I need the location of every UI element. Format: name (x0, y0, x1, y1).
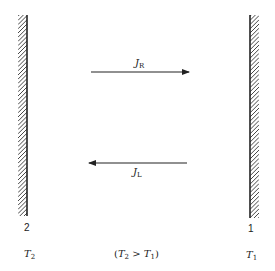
wall-1-number: 1 (248, 223, 254, 235)
wall-2-temperature: T2 (24, 248, 35, 263)
wall-2 (18, 3, 27, 235)
flux-right-label: JR (135, 57, 144, 72)
flux-right-sub: R (139, 62, 144, 70)
condition-operator: > (129, 248, 144, 259)
wall-2-number: 2 (24, 222, 30, 234)
condition-lhs: T (118, 248, 125, 259)
flux-left-label: JL (133, 166, 142, 181)
temperature-condition: (T2 > T1) (114, 248, 159, 263)
diagram-canvas: JR JL 2 1 T2 T1 (T2 > T1) (0, 0, 275, 271)
condition-close-paren: ) (155, 248, 159, 259)
t1-symbol: T (246, 249, 253, 260)
hatch-pattern-left (18, 3, 27, 235)
wall-1-temperature: T1 (246, 249, 257, 264)
diagram-graphics (0, 0, 275, 271)
wall-1 (250, 3, 259, 239)
t1-sub: 1 (253, 254, 257, 262)
flux-left-sub: L (137, 171, 142, 179)
t2-sub: 2 (31, 253, 35, 261)
hatch-pattern-right (250, 3, 259, 239)
t2-symbol: T (24, 248, 31, 259)
